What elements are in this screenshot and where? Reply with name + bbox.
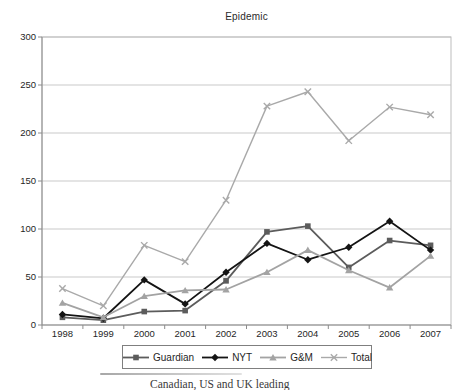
marker-triangle [263,269,270,275]
series-line-total [62,92,430,306]
x-axis-label: 2000 [124,328,164,340]
y-axis-label: 250 [0,79,36,91]
x-axis-label: 2002 [206,328,246,340]
x-legend-icon [320,352,348,363]
series-line-guardian [62,226,430,320]
marker-square [141,309,147,315]
chart-legend: GuardianNYTG&MTotal [122,345,372,369]
x-axis-label: 2007 [411,328,451,340]
y-axis-label: 100 [0,223,36,235]
marker-triangle [304,247,311,253]
caption-fragment: Canadian, US and UK leading [0,378,469,390]
marker-square [305,223,311,229]
y-axis-label: 50 [0,271,36,283]
x-axis-label: 2005 [329,328,369,340]
marker-diamond [304,256,311,263]
diamond-legend-icon [201,352,229,363]
x-axis-label: 2001 [165,328,205,340]
legend-item-gm: G&M [259,352,313,363]
legend-label: Guardian [153,352,194,363]
y-axis-label: 200 [0,127,36,139]
y-axis-label: 0 [0,319,36,331]
marker-square [387,238,393,244]
legend-item-guardian: Guardian [122,352,194,363]
marker-square [264,229,270,235]
x-axis-label: 1998 [42,328,82,340]
x-axis-label: 2006 [370,328,410,340]
marker-square [182,308,188,314]
legend-label: NYT [232,352,252,363]
legend-item-nyt: NYT [201,352,252,363]
x-axis-label: 1999 [83,328,123,340]
scan-artifact-line [100,373,242,375]
legend-label: G&M [290,352,313,363]
series-line-nyt [62,221,430,318]
marker-triangle [59,299,66,305]
x-axis-label: 2004 [288,328,328,340]
legend-label: Total [351,352,372,363]
y-axis-label: 150 [0,175,36,187]
triangle-legend-icon [259,352,287,363]
x-axis-label: 2003 [247,328,287,340]
y-axis-label: 300 [0,31,36,43]
square-legend-icon [122,352,150,363]
marker-square [223,278,229,284]
line-chart-plot [0,0,469,345]
legend-item-total: Total [320,352,372,363]
marker-triangle [427,252,434,258]
